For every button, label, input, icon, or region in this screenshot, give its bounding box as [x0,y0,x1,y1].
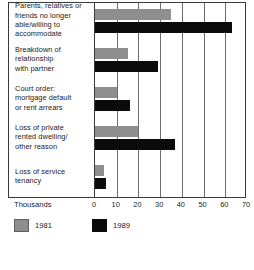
category-label-column: Parents, relatives orfriends no longerab… [9,3,94,197]
category-label-line: accommodate [15,29,92,38]
category-label-line: other reason [15,142,92,151]
category-label-line: relationship [15,54,92,63]
category-label-line: or rent arrears [15,103,92,112]
category-label-3: Loss of privaterented dwelling/other rea… [15,123,92,151]
x-tick-label-40: 40 [177,200,185,209]
legend-label-1981: 1981 [35,221,52,230]
category-label-line: Court order: [15,84,92,93]
category-label-4: Loss of servicetenancy [15,167,92,186]
x-tick-label-70: 70 [242,200,250,209]
category-label-line: rented dwelling/ [15,132,92,141]
legend-swatch-1981 [14,219,29,232]
chart-legend: 1981 1989 [8,219,246,237]
bar-1989-3[interactable] [95,139,175,150]
category-label-line: mortgage default [15,93,92,102]
legend-item-1981[interactable]: 1981 [14,219,52,232]
x-tick-label-60: 60 [220,200,228,209]
bar-1989-4[interactable] [95,178,106,189]
legend-label-1989: 1989 [113,221,130,230]
x-tick-label-30: 30 [155,200,163,209]
category-label-line: able/willing to [15,20,92,29]
bar-1981-0[interactable] [95,9,171,20]
bar-1981-2[interactable] [95,87,117,98]
category-label-line: Loss of service [15,167,92,176]
category-label-line: Breakdown of [15,45,92,54]
bar-1981-1[interactable] [95,48,128,59]
plot-area [94,3,245,197]
category-label-line: tenancy [15,176,92,185]
chart-frame: Parents, relatives orfriends no longerab… [8,2,246,198]
category-label-1: Breakdown ofrelationshipwith partner [15,45,92,73]
bar-1989-1[interactable] [95,61,158,72]
category-label-2: Court order:mortgage defaultor rent arre… [15,84,92,112]
bar-1981-3[interactable] [95,126,138,137]
x-tick-label-20: 20 [133,200,141,209]
bar-1989-2[interactable] [95,100,130,111]
category-label-line: Parents, relatives or [15,1,92,10]
x-tick-label-50: 50 [198,200,206,209]
category-label-line: friends no longer [15,11,92,20]
category-label-0: Parents, relatives orfriends no longerab… [15,1,92,38]
bar-1981-4[interactable] [95,165,104,176]
x-tick-label-0: 0 [92,200,96,209]
x-tick-label-10: 10 [112,200,120,209]
x-axis-title: Thousands [14,200,52,209]
bar-1989-0[interactable] [95,22,232,33]
category-label-line: with partner [15,64,92,73]
legend-swatch-1989 [92,219,107,232]
x-axis: Thousands 010203040506070 [8,198,246,214]
chart-root: Parents, relatives orfriends no longerab… [0,0,254,270]
category-label-line: Loss of private [15,123,92,132]
legend-item-1989[interactable]: 1989 [92,219,130,232]
